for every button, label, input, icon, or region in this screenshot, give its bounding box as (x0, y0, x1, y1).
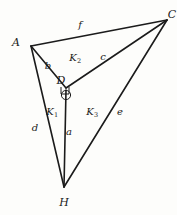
vertex-label-C: C (168, 9, 176, 20)
region-label-K3-base: K (86, 106, 93, 117)
region-label-K2: K2 (69, 53, 81, 63)
region-label-K3: K3 (86, 107, 98, 117)
edge-label-f: f (78, 20, 82, 30)
edge-label-c: c (100, 52, 106, 62)
region-label-K2-base: K (69, 52, 76, 63)
vertex-label-A: A (12, 37, 20, 48)
edge-label-e: e (117, 107, 123, 117)
region-label-K2-subscript: 2 (77, 57, 81, 65)
region-label-K1-subscript: 1 (54, 111, 58, 119)
region-label-K1: K1 (46, 107, 58, 117)
edge-label-d: d (32, 123, 38, 133)
region-label-K3-subscript: 3 (94, 111, 98, 119)
vertex-label-D: D (57, 75, 66, 86)
region-label-K1-base: K (46, 106, 53, 117)
geometry-figure: A C D H f b c d a e K1 K2 K3 (0, 0, 177, 215)
edge-e-H-to-C (64, 20, 167, 187)
vertex-label-H: H (59, 197, 69, 208)
figure-edges (31, 20, 167, 187)
edge-a-D-to-H (64, 90, 66, 187)
edge-label-a: a (66, 127, 72, 137)
edge-label-b: b (45, 61, 51, 71)
